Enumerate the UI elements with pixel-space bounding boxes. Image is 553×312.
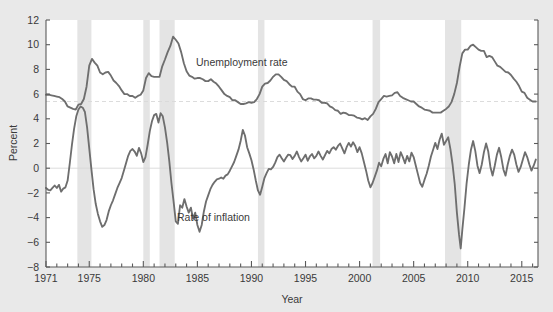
unemployment-inflation-chart: −8−6−4−2024681012 1971197519801985199019… — [0, 0, 553, 312]
x-tick-label: 2010 — [456, 272, 480, 284]
y-tick-label: 12 — [27, 14, 39, 26]
y-tick-label: 0 — [33, 162, 39, 174]
x-tick-label: 2000 — [348, 272, 372, 284]
y-tick-label: 8 — [33, 63, 39, 75]
x-tick-label: 1980 — [132, 272, 156, 284]
x-tick-label: 1971 — [34, 272, 58, 284]
recession-band — [143, 20, 149, 267]
y-tick-label: −4 — [27, 211, 39, 223]
x-axis-title: Year — [281, 293, 303, 305]
y-tick-label: −8 — [27, 261, 39, 273]
y-tick-label: 2 — [33, 137, 39, 149]
series-label-unemployment: Unemployment rate — [196, 56, 288, 68]
y-tick-label: −6 — [27, 236, 39, 248]
y-tick-label: −2 — [27, 187, 39, 199]
y-tick-label: 6 — [33, 88, 39, 100]
x-tick-label: 1985 — [186, 272, 210, 284]
x-tick-label: 2005 — [402, 272, 426, 284]
series-label-inflation: Rate of inflation — [177, 211, 250, 223]
x-tick-label: 1990 — [240, 272, 264, 284]
plot-area-background — [46, 20, 538, 267]
y-axis-title: Percent — [7, 125, 19, 161]
y-tick-label: 10 — [27, 38, 39, 50]
recession-band — [373, 20, 381, 267]
x-tick-label: 1995 — [294, 272, 318, 284]
y-tick-label: 4 — [33, 112, 39, 124]
x-tick-label: 1975 — [78, 272, 102, 284]
x-tick-label: 2015 — [510, 272, 534, 284]
